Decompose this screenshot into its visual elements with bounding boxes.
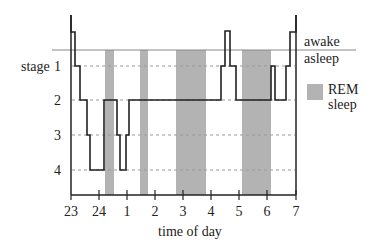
- rem-bands: [105, 50, 271, 195]
- awake-label: awake: [304, 34, 340, 49]
- x-tick-label: 4: [208, 204, 215, 219]
- rem-band: [242, 50, 271, 195]
- x-tick-label: 1: [124, 204, 131, 219]
- y-tick-label: 2: [54, 93, 61, 108]
- rem-band: [105, 50, 114, 195]
- rem-band: [176, 50, 206, 195]
- rem-band: [140, 50, 148, 195]
- x-tick-label: 5: [236, 204, 243, 219]
- rem-legend-label-2: sleep: [328, 97, 357, 112]
- hypnogram-chart: stage 1 2 3 4 23 24 1 2 3 4 5 6 7 time o…: [0, 0, 376, 251]
- x-axis-title: time of day: [158, 224, 222, 239]
- x-tick-label: 23: [64, 204, 78, 219]
- y-tick-label: 4: [54, 163, 61, 178]
- x-tick-label: 6: [264, 204, 271, 219]
- y-tick-label: 1: [54, 59, 61, 74]
- rem-legend-swatch: [307, 84, 323, 100]
- y-axis-title: stage: [21, 59, 50, 74]
- x-tick-label: 7: [293, 204, 300, 219]
- y-tick-label: 3: [54, 128, 61, 143]
- x-tick-label: 2: [152, 204, 159, 219]
- x-tick-label: 24: [92, 204, 106, 219]
- asleep-label: asleep: [304, 51, 339, 66]
- x-tick-label: 3: [180, 204, 187, 219]
- rem-legend-label: REM: [328, 82, 359, 97]
